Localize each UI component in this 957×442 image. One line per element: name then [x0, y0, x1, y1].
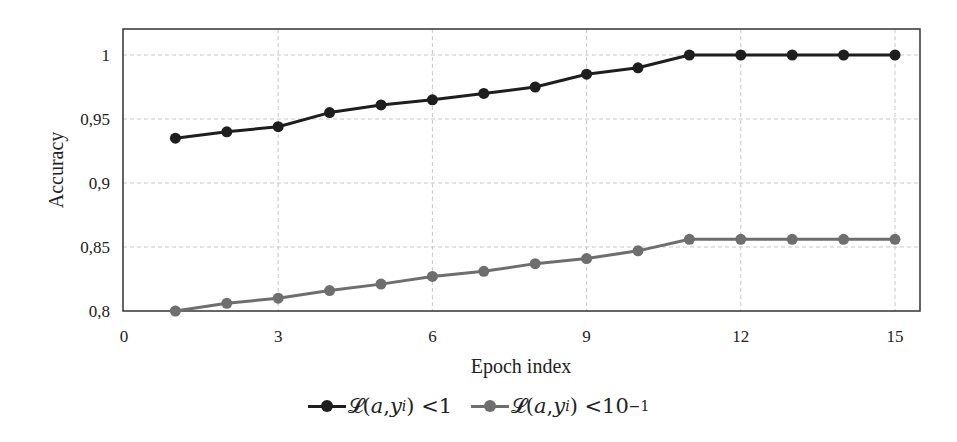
legend-var-y: y	[553, 394, 565, 418]
legend-var-y: y	[390, 394, 402, 418]
y-tick-label: 0,8	[89, 302, 110, 321]
data-point-marker	[376, 279, 387, 290]
data-point-marker	[273, 121, 284, 132]
series-loss-lt-0.1	[170, 234, 901, 317]
data-point-marker	[478, 88, 489, 99]
plot-frame	[123, 29, 920, 311]
data-point-marker	[530, 82, 541, 93]
series-loss-lt-1	[170, 50, 901, 144]
data-point-marker	[581, 69, 592, 80]
legend-item-loss-lt-0.1: 𝓛(a, yi) < 10−1	[471, 394, 650, 418]
legend-item-loss-lt-1: 𝓛(a, yi) < 1	[308, 394, 453, 418]
data-point-marker	[221, 298, 232, 309]
data-point-marker	[735, 234, 746, 245]
legend-threshold: 1	[439, 394, 452, 418]
data-point-marker	[838, 234, 849, 245]
x-tick-label: 12	[732, 327, 749, 346]
legend: 𝓛(a, yi) < 1 𝓛(a, yi) < 10−1	[0, 393, 957, 418]
data-point-marker	[890, 234, 901, 245]
data-point-marker	[221, 126, 232, 137]
x-tick-label: 3	[274, 327, 283, 346]
data-point-marker	[530, 258, 541, 269]
x-tick-label: 9	[582, 327, 591, 346]
y-tick-label: 1	[102, 46, 111, 65]
grid-lines	[123, 29, 920, 311]
data-point-marker	[170, 306, 181, 317]
data-point-marker	[684, 50, 695, 61]
legend-swatch-gray	[471, 400, 509, 412]
y-axis-ticks: 0,80,850,90,951	[80, 46, 110, 321]
x-tick-label: 15	[887, 327, 904, 346]
y-tick-label: 0,9	[89, 174, 110, 193]
data-point-marker	[170, 133, 181, 144]
line-chart: 03691215 0,80,850,90,951 Epoch index Acc…	[0, 0, 957, 390]
data-point-marker	[324, 285, 335, 296]
data-point-marker	[684, 234, 695, 245]
data-point-marker	[581, 253, 592, 264]
y-tick-label: 0,85	[80, 238, 110, 257]
data-point-marker	[427, 271, 438, 282]
x-tick-label: 0	[120, 327, 129, 346]
legend-threshold: 10	[602, 394, 629, 418]
legend-var-a: a	[371, 394, 384, 418]
data-point-marker	[787, 234, 798, 245]
data-point-marker	[838, 50, 849, 61]
legend-label-prefix: 𝓛(	[511, 394, 534, 418]
legend-sep: ,	[383, 394, 390, 418]
data-point-marker	[787, 50, 798, 61]
data-point-marker	[735, 50, 746, 61]
y-tick-label: 0,95	[80, 110, 110, 129]
data-point-marker	[427, 94, 438, 105]
x-axis-title: Epoch index	[471, 355, 572, 378]
data-point-marker	[890, 50, 901, 61]
legend-relation: ) <	[570, 394, 602, 418]
legend-relation: ) <	[406, 394, 438, 418]
data-point-marker	[633, 245, 644, 256]
data-point-marker	[273, 293, 284, 304]
x-tick-label: 6	[428, 327, 437, 346]
legend-var-a: a	[534, 394, 547, 418]
data-point-marker	[324, 107, 335, 118]
legend-swatch-black	[308, 400, 346, 412]
legend-exponent: −1	[629, 398, 650, 414]
legend-label-prefix: 𝓛(	[348, 394, 371, 418]
y-axis-title: Accuracy	[45, 132, 68, 209]
x-axis-ticks: 03691215	[120, 327, 904, 346]
data-point-marker	[633, 62, 644, 73]
data-point-marker	[478, 266, 489, 277]
series-line	[175, 239, 895, 311]
data-point-marker	[376, 99, 387, 110]
